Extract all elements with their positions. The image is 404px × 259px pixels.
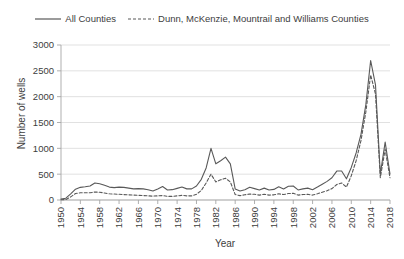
x-tick-marks xyxy=(61,200,390,204)
x-tick-label: 1958 xyxy=(94,207,105,228)
y-tick-label: 2500 xyxy=(33,65,54,76)
y-tick-label: 2000 xyxy=(33,91,54,102)
x-tick-label: 2006 xyxy=(326,207,337,228)
x-tick-label: 1974 xyxy=(172,207,183,228)
x-tick-label: 1990 xyxy=(249,207,260,228)
y-tick-label: 500 xyxy=(38,169,54,180)
x-tick-label: 2010 xyxy=(346,207,357,228)
x-tick-label: 1986 xyxy=(230,207,241,228)
x-tick-label: 1962 xyxy=(113,207,124,228)
y-tick-marks xyxy=(57,45,61,200)
x-axis-title: Year xyxy=(60,238,390,249)
data-series xyxy=(61,61,390,200)
x-tick-label: 2014 xyxy=(365,207,376,228)
y-tick-label: 1000 xyxy=(33,143,54,154)
x-tick-label: 1978 xyxy=(191,207,202,228)
chart-container: All Counties Dunn, McKenzie, Mountrail a… xyxy=(0,0,404,259)
y-axis-title: Number of wells xyxy=(16,49,27,179)
x-tick-label: 1982 xyxy=(210,207,221,228)
chart-svg: 050010001500200025003000 195019541958196… xyxy=(0,0,404,259)
x-tick-label: 1954 xyxy=(75,207,86,228)
y-tick-label: 3000 xyxy=(33,39,54,50)
x-tick-label: 2018 xyxy=(384,207,395,228)
series-line-four-counties xyxy=(61,75,390,200)
x-tick-label: 1994 xyxy=(268,207,279,228)
y-tick-label: 0 xyxy=(49,194,54,205)
x-tick-label: 1966 xyxy=(133,207,144,228)
y-tick-labels: 050010001500200025003000 xyxy=(33,39,54,205)
plot-area: 050010001500200025003000 195019541958196… xyxy=(0,0,404,259)
gridlines xyxy=(61,45,390,200)
x-tick-labels: 1950195419581962196619701974197819821986… xyxy=(55,207,395,228)
x-tick-label: 1998 xyxy=(288,207,299,228)
x-tick-label: 2002 xyxy=(307,207,318,228)
y-tick-label: 1500 xyxy=(33,117,54,128)
x-tick-label: 1970 xyxy=(152,207,163,228)
x-tick-label: 1950 xyxy=(55,207,66,228)
